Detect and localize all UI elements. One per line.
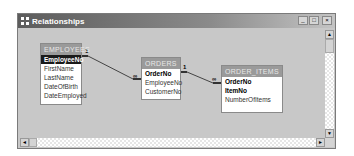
scroll-up-button[interactable]: ▲ <box>325 30 334 39</box>
relationship-one-label: 1 <box>183 64 186 70</box>
field-customerno[interactable]: CustomerNo <box>142 87 180 96</box>
field-dateofbirth[interactable]: DateOfBirth <box>41 82 81 91</box>
scroll-right-button[interactable]: ► <box>316 138 325 147</box>
field-itemno[interactable]: ItemNo <box>222 86 282 95</box>
size-grip[interactable] <box>325 138 334 147</box>
relationships-icon <box>21 17 29 25</box>
table-employees[interactable]: EMPLOYEES EmployeeNo FirstName LastName … <box>40 43 82 105</box>
field-orderno[interactable]: OrderNo <box>142 69 180 78</box>
field-numberofitems[interactable]: NumberOfItems <box>222 95 282 104</box>
table-orders[interactable]: ORDERS OrderNo EmployeeNo CustomerNo <box>141 57 181 100</box>
horizontal-scroll-thumb[interactable] <box>29 138 37 147</box>
field-employeeno[interactable]: EmployeeNo <box>142 78 180 87</box>
scroll-left-button[interactable]: ◄ <box>20 138 29 147</box>
field-orderno[interactable]: OrderNo <box>222 77 282 86</box>
field-firstname[interactable]: FirstName <box>41 64 81 73</box>
relationship-many-label: ∞ <box>212 76 216 82</box>
title-bar[interactable]: Relationships _ □ × <box>18 14 335 28</box>
table-title[interactable]: ORDER_ITEMS <box>222 66 282 77</box>
vertical-scroll-thumb[interactable] <box>325 39 334 53</box>
vertical-scrollbar[interactable]: ▲ ▼ <box>325 30 334 138</box>
table-title[interactable]: EMPLOYEES <box>41 44 81 55</box>
minimize-button[interactable]: _ <box>298 16 308 25</box>
maximize-button[interactable]: □ <box>309 16 319 25</box>
scroll-down-button[interactable]: ▼ <box>325 129 334 138</box>
field-lastname[interactable]: LastName <box>41 73 81 82</box>
relationship-many-label: ∞ <box>133 73 137 79</box>
table-order-items[interactable]: ORDER_ITEMS OrderNo ItemNo NumberOfItems <box>221 65 283 113</box>
horizontal-scrollbar[interactable]: ◄ ► <box>20 138 325 147</box>
field-dateemployed[interactable]: DateEmployed <box>41 91 81 100</box>
window-title: Relationships <box>32 17 84 26</box>
close-button[interactable]: × <box>322 16 332 25</box>
table-title[interactable]: ORDERS <box>142 58 180 69</box>
field-employeeno[interactable]: EmployeeNo <box>41 55 81 64</box>
